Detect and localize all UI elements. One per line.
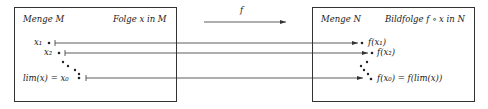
diagram-graphics xyxy=(0,0,488,109)
maps-to-ticks xyxy=(55,40,86,81)
point-mapping-arrows xyxy=(55,43,368,78)
sequence-dots-left xyxy=(48,42,81,80)
sequence-dots-right xyxy=(360,42,374,81)
